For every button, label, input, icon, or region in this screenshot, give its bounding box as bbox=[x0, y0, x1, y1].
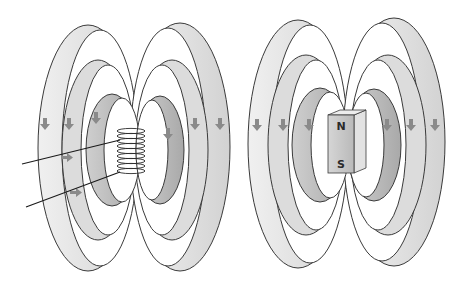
north-pole-label: N bbox=[336, 120, 345, 133]
magnet-side-face bbox=[354, 110, 366, 173]
bar-magnet: N S bbox=[328, 110, 366, 173]
bar-magnet-panel: N S bbox=[248, 18, 445, 268]
magnetic-field-diagram: N S bbox=[0, 0, 468, 293]
field-rings-left bbox=[38, 23, 230, 271]
solenoid-panel bbox=[22, 23, 230, 271]
field-ring-inner-left bbox=[86, 94, 140, 206]
south-pole-label: S bbox=[337, 158, 345, 171]
